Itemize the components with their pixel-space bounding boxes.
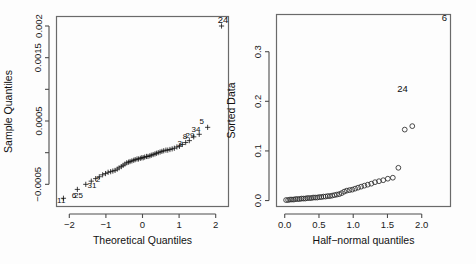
data-points xyxy=(284,124,415,203)
point-label: 25 xyxy=(74,191,83,200)
x-tick-label: 2 xyxy=(213,219,218,230)
figure-canvas: −2−1012Theoretical Quantiles−0.00050.000… xyxy=(0,0,476,264)
y-axis-label: Sample Quantiles xyxy=(2,70,14,153)
point-label: 24 xyxy=(397,83,408,94)
y-axis: −0.00050.00050.00150.002Sample Quantiles xyxy=(2,14,50,202)
x-axis: −2−1012Theoretical Quantiles xyxy=(64,214,218,246)
x-tick-label: 0 xyxy=(140,219,145,230)
x-tick-label: −1 xyxy=(100,219,111,230)
data-point-plus xyxy=(103,171,108,176)
y-tick-label: 0.0 xyxy=(253,194,264,207)
y-tick-label: 0.1 xyxy=(253,144,264,157)
corner-label: 6 xyxy=(442,12,447,23)
x-tick-label: 2.0 xyxy=(415,219,428,230)
panel-qq-plot: −2−1012Theoretical Quantiles−0.00050.000… xyxy=(2,14,229,246)
data-point-circle xyxy=(359,184,364,189)
corner-label: 24 xyxy=(218,14,229,25)
data-points xyxy=(61,23,224,200)
y-tick-label: 0.002 xyxy=(33,14,44,38)
data-point-circle xyxy=(410,124,415,129)
y-tick-label: 0.0005 xyxy=(33,106,44,135)
data-point-plus xyxy=(106,170,111,175)
data-point-circle xyxy=(362,183,367,188)
point-label: 2 xyxy=(96,175,101,184)
y-tick-label: 0.3 xyxy=(253,45,264,58)
y-axis: 0.00.10.20.3Sorted Data xyxy=(225,45,270,207)
x-tick-label: 1.5 xyxy=(381,219,394,230)
data-point-circle xyxy=(396,165,401,170)
two-panel-diagnostic-plot: −2−1012Theoretical Quantiles−0.00050.000… xyxy=(0,0,476,264)
point-label: 11 xyxy=(57,196,66,205)
plot-box xyxy=(57,17,229,207)
data-point-circle xyxy=(385,176,390,181)
x-tick-label: 1.0 xyxy=(347,219,360,230)
y-tick-label: 0.2 xyxy=(253,95,264,108)
x-axis-label: Theoretical Quantiles xyxy=(93,234,192,246)
point-label: 5 xyxy=(200,117,205,126)
x-tick-label: 0.5 xyxy=(312,219,325,230)
data-point-circle xyxy=(402,127,407,132)
x-axis-label: Half−normal quantiles xyxy=(313,234,415,246)
y-tick-label: 0.0015 xyxy=(33,43,44,72)
y-tick-label: −0.0005 xyxy=(33,167,44,202)
point-label: 34 xyxy=(191,125,200,134)
x-tick-label: 1 xyxy=(176,219,181,230)
x-tick-label: −2 xyxy=(64,219,75,230)
x-tick-label: 0.0 xyxy=(278,219,291,230)
y-axis-label: Sorted Data xyxy=(225,82,237,138)
data-point-plus xyxy=(205,125,210,130)
data-point-circle xyxy=(356,185,361,190)
data-point-circle xyxy=(353,186,358,191)
plot-box xyxy=(277,15,451,207)
panel-half-normal-plot: 0.00.51.01.52.0Half−normal quantiles0.00… xyxy=(225,12,451,246)
data-point-circle xyxy=(390,175,395,180)
x-axis: 0.00.51.01.52.0Half−normal quantiles xyxy=(278,214,428,246)
point-labels: 24 xyxy=(397,83,408,94)
